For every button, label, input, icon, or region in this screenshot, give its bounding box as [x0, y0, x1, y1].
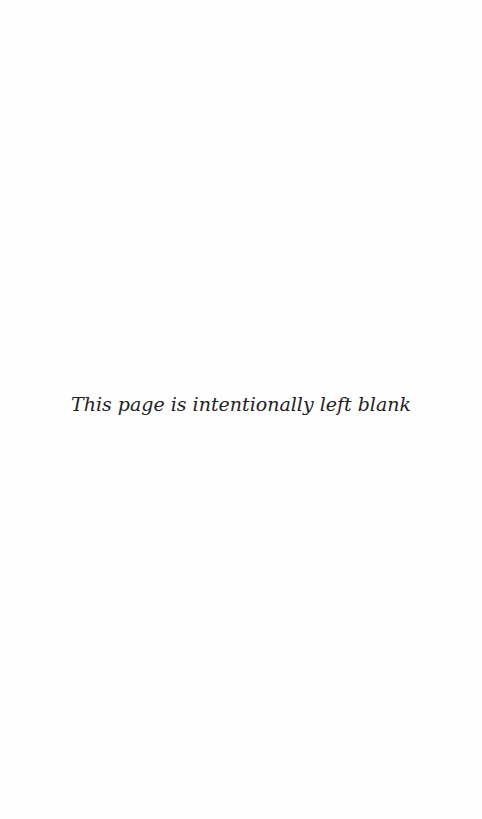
- blank-page: This page is intentionally left blank: [0, 0, 482, 819]
- blank-page-notice: This page is intentionally left blank: [0, 392, 482, 416]
